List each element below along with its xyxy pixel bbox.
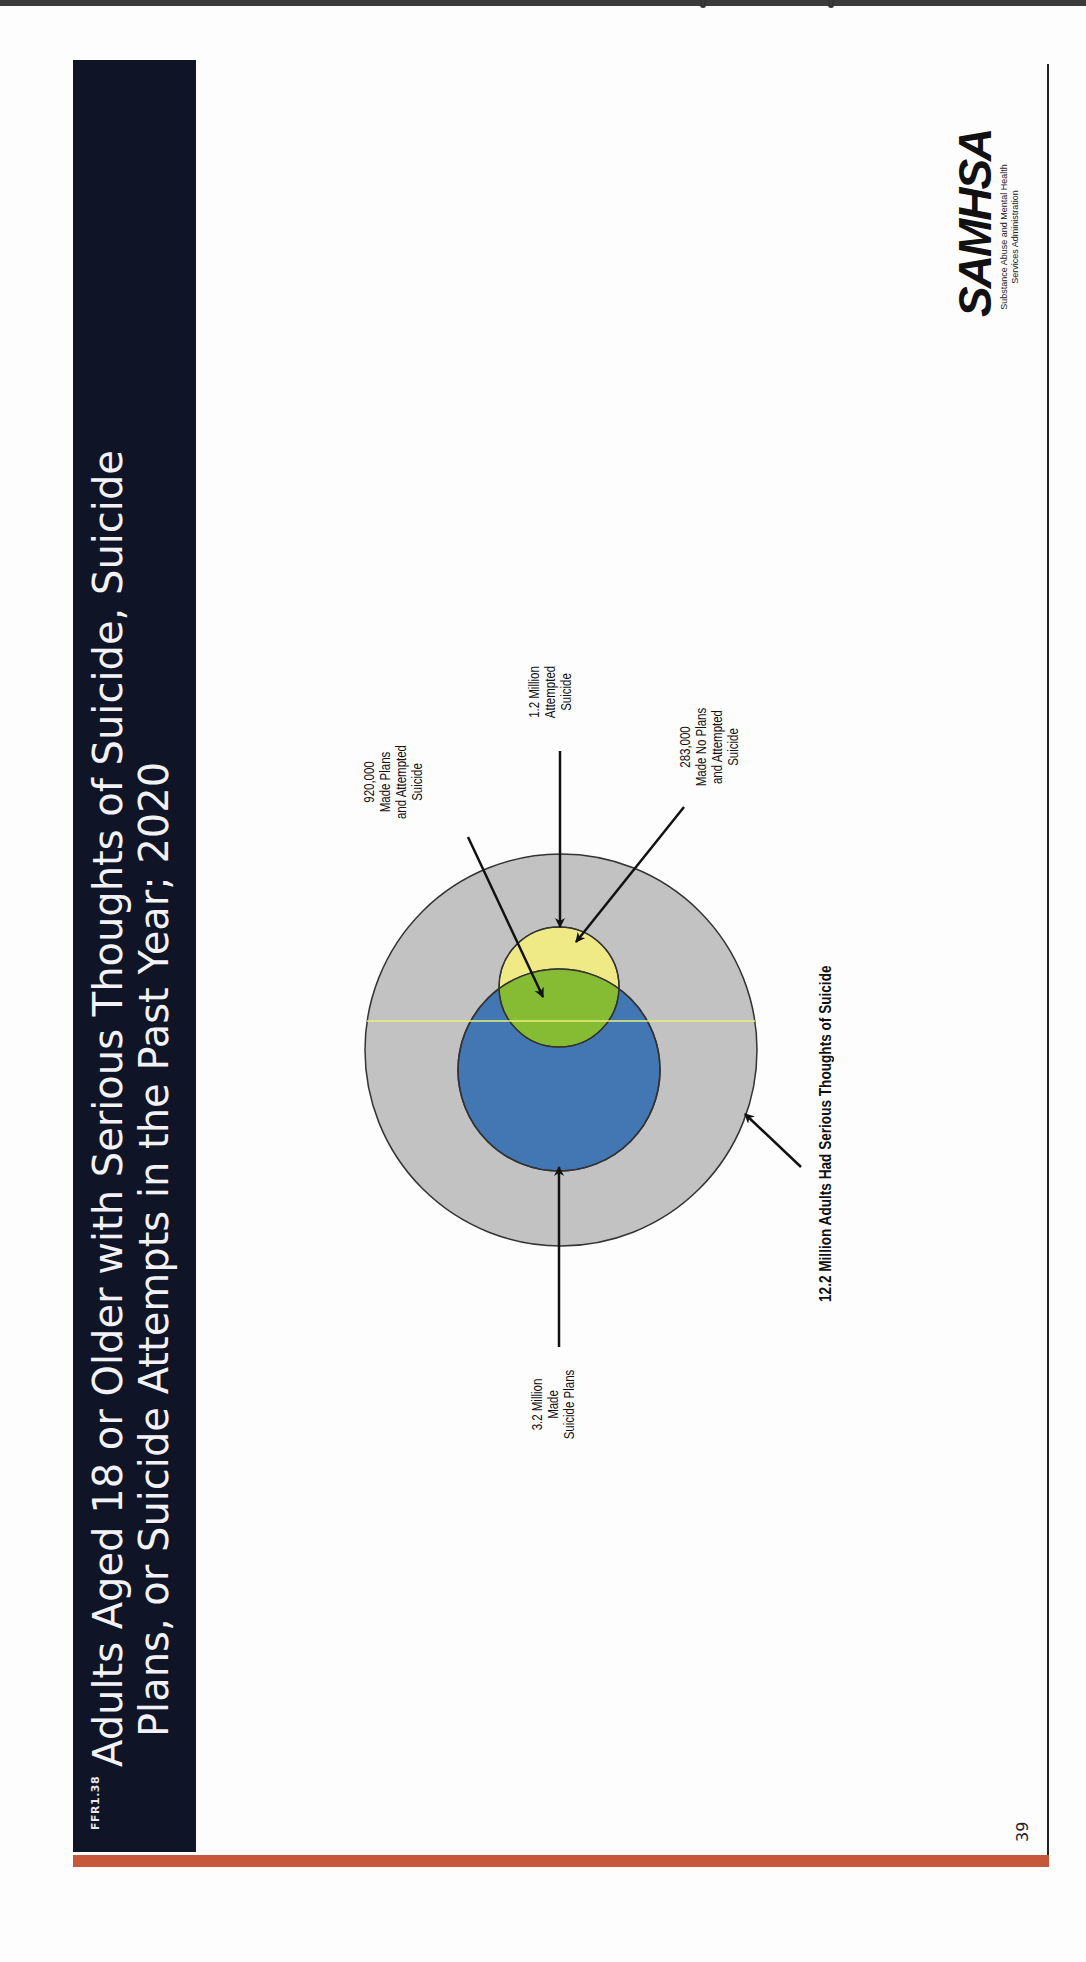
venn-diagram [73, 60, 1049, 1867]
label-made-plans-and-attempted: 920,000 Made Plans and Attempted Suicide [361, 721, 425, 844]
page-top-tick [828, 0, 834, 8]
label-value: 283,000 [677, 686, 693, 809]
label-line: Suicide [558, 643, 574, 741]
label-value: 1.2 Million [526, 643, 542, 741]
label-value: 3.2 Million [529, 1357, 545, 1451]
slide: FFR1.38 Adults Aged 18 or Older with Ser… [73, 60, 1049, 1867]
label-no-plans-attempted: 283,000 Made No Plans and Attempted Suic… [677, 686, 741, 809]
arrow-serious-thoughts [745, 1114, 801, 1167]
label-line: Suicide [725, 686, 741, 809]
label-line: and Attempted [393, 721, 409, 844]
label-line: Made Plans [377, 721, 393, 844]
label-line: Suicide [409, 721, 425, 844]
label-line: Made No Plans [693, 686, 709, 809]
label-value: 920,000 [361, 721, 377, 844]
label-serious-thoughts: 12.2 Million Adults Had Serious Thoughts… [818, 965, 834, 1302]
label-line: Attempted [542, 643, 558, 741]
label-line: Suicide Plans [561, 1357, 577, 1451]
label-line: and Attempted [709, 686, 725, 809]
page-top-rule [0, 0, 1086, 6]
label-attempted: 1.2 Million Attempted Suicide [526, 643, 574, 741]
label-made-plans: 3.2 Million Made Suicide Plans [529, 1357, 577, 1451]
page-top-tick [700, 0, 706, 8]
label-line: Made [545, 1357, 561, 1451]
